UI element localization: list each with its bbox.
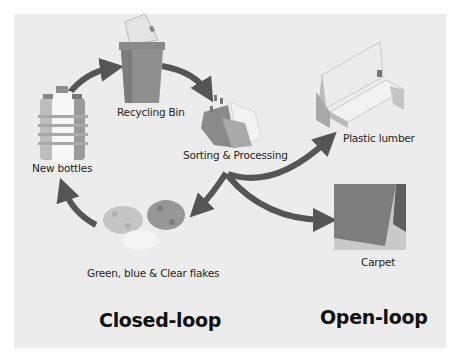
arrow-bottles-to-bin [68, 68, 112, 95]
label-sorting-processing: Sorting & Processing [183, 149, 288, 161]
recycling-bin-icon [119, 14, 165, 103]
arrow-sorting-to-carpet [228, 176, 325, 220]
title-closed-loop: Closed-loop [99, 309, 221, 331]
label-new-bottles: New bottles [32, 162, 92, 174]
arrow-flakes-to-bottles [64, 189, 96, 225]
label-carpet: Carpet [361, 256, 395, 268]
label-flakes: Green, blue & Clear flakes [87, 267, 219, 279]
label-plastic-lumber: Plastic lumber [343, 132, 415, 144]
bench-icon [316, 42, 404, 128]
arrow-bin-to-sorting [162, 66, 207, 92]
label-recycling-bin: Recycling Bin [117, 106, 185, 118]
plastic-flakes-icon [103, 200, 185, 250]
sorted-bottles-icon [201, 95, 262, 148]
new-bottles-icon [38, 86, 88, 163]
title-open-loop: Open-loop [320, 306, 428, 328]
carpet-image [334, 184, 406, 250]
arrow-sorting-to-flakes [198, 173, 226, 209]
